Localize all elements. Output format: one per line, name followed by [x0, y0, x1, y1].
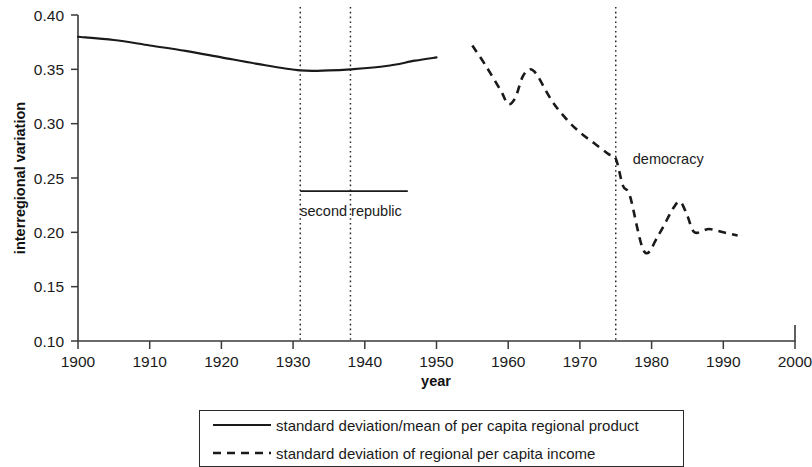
y-tick-label: 0.35 [34, 61, 64, 78]
x-axis-title: year [421, 373, 451, 389]
x-tick-label: 1950 [419, 353, 454, 370]
chart-canvas: 0.100.150.200.250.300.350.40 19001910192… [0, 0, 812, 467]
y-axis-ticks [71, 15, 78, 341]
x-tick-label: 1920 [204, 353, 239, 370]
legend-label-1: standard deviation of regional per capit… [276, 445, 595, 462]
legend-swatch-dashed-line [208, 448, 276, 458]
y-tick-label: 0.30 [34, 115, 65, 132]
y-tick-label: 0.25 [34, 170, 64, 187]
legend-label-0: standard deviation/mean of per capita re… [276, 417, 639, 434]
y-axis-title: interregional variation [12, 102, 28, 254]
annotation-democracy: democracy [633, 151, 705, 167]
x-tick-label: 1990 [706, 353, 741, 370]
y-tick-label: 0.15 [34, 278, 64, 295]
x-tick-label: 1930 [276, 353, 311, 370]
axis-lines [78, 15, 795, 341]
x-axis-ticks [78, 341, 795, 349]
x-tick-label: 1960 [491, 353, 526, 370]
y-axis-tick-labels: 0.100.150.200.250.300.350.40 [34, 7, 65, 350]
chart-figure: 0.100.150.200.250.300.350.40 19001910192… [0, 0, 812, 467]
legend-swatch-solid-line [208, 420, 276, 430]
x-axis-tick-labels: 1900191019201930194019501960197019801990… [61, 353, 812, 370]
x-tick-label: 1970 [563, 353, 598, 370]
annotation-second-republic: second republic [300, 203, 402, 219]
x-tick-label: 1940 [348, 353, 383, 370]
x-tick-label: 1900 [61, 353, 96, 370]
y-tick-label: 0.10 [34, 333, 65, 350]
legend-item: standard deviation of regional per capit… [200, 439, 683, 467]
y-tick-label: 0.40 [34, 7, 65, 24]
vertical-rules [300, 7, 615, 341]
x-tick-label: 1980 [634, 353, 669, 370]
series-line-dashed [472, 45, 737, 253]
series-line-solid [78, 37, 437, 71]
y-tick-label: 0.20 [34, 224, 65, 241]
chart-legend: standard deviation/mean of per capita re… [199, 410, 684, 467]
x-tick-label: 1910 [132, 353, 167, 370]
legend-item: standard deviation/mean of per capita re… [200, 411, 683, 439]
x-tick-label: 2000 [778, 353, 812, 370]
